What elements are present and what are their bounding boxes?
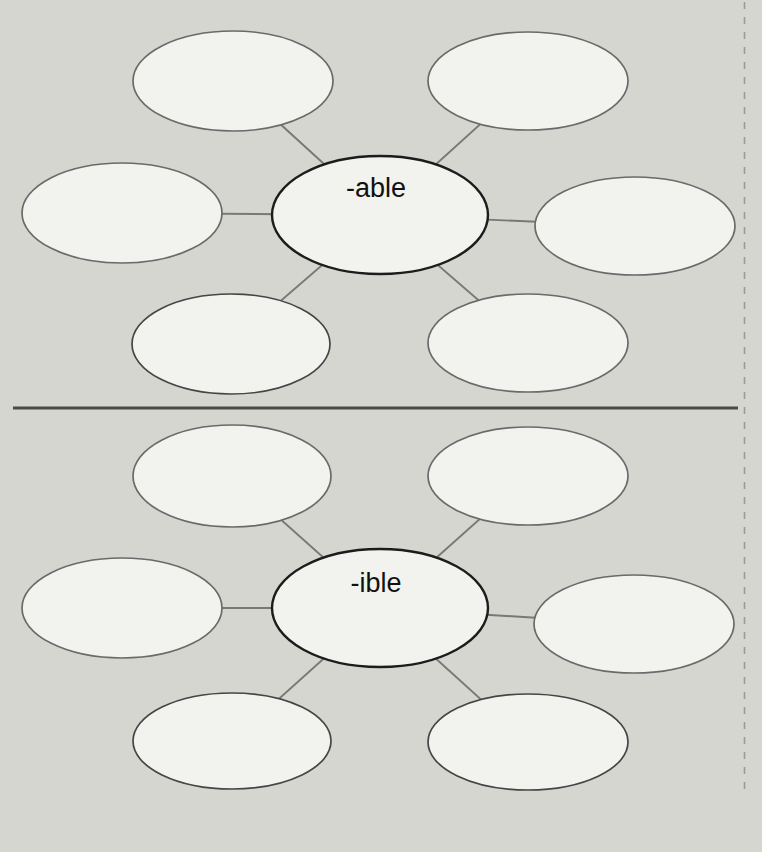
suffix-able-label: -able bbox=[346, 173, 406, 203]
worksheet-page: -able -ible 9 bbox=[0, 0, 762, 852]
blank-word-ellipse bbox=[428, 694, 628, 790]
blank-word-ellipse bbox=[535, 177, 735, 275]
blank-word-ellipse bbox=[22, 558, 222, 658]
blank-word-ellipse bbox=[22, 163, 222, 263]
blank-word-ellipse bbox=[133, 31, 333, 131]
word-web-canvas: -able -ible bbox=[0, 0, 762, 852]
blank-word-ellipse bbox=[428, 294, 628, 392]
blank-word-ellipse bbox=[534, 575, 734, 673]
blank-word-ellipse bbox=[133, 693, 331, 789]
center-ellipse-ible bbox=[272, 549, 488, 667]
suffix-ible-web: -ible bbox=[22, 425, 734, 790]
blank-word-ellipse bbox=[428, 427, 628, 525]
blank-word-ellipse bbox=[132, 294, 330, 394]
blank-word-ellipse bbox=[428, 32, 628, 130]
blank-word-ellipse bbox=[133, 425, 331, 527]
suffix-ible-label: -ible bbox=[350, 568, 401, 598]
suffix-able-web: -able bbox=[22, 31, 735, 394]
page-footer: 96 Sort 24: Adding Suffixes -able, -ible bbox=[0, 804, 762, 852]
